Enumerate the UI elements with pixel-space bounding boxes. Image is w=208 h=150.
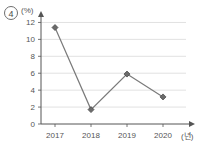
- x-tick-label: 2019: [118, 131, 136, 140]
- x-tick-label: 2020: [154, 131, 172, 140]
- y-tick-label: 2: [31, 103, 36, 112]
- x-axis-tick-labels: 2017201820192020: [46, 131, 172, 140]
- line-chart-plot: 024681012 2017201820192020: [0, 0, 208, 150]
- gridlines: [38, 22, 186, 124]
- y-tick-label: 12: [26, 18, 35, 27]
- data-point-marker: [52, 25, 58, 31]
- y-tick-label: 8: [31, 52, 36, 61]
- y-axis-tick-labels: 024681012: [26, 18, 35, 129]
- series-line: [55, 28, 163, 110]
- y-tick-label: 4: [31, 86, 36, 95]
- series-markers: [52, 25, 166, 113]
- chart-figure: 4 (%) (년) 024681012 2017201820192020: [0, 0, 208, 150]
- data-point-marker: [160, 94, 166, 100]
- y-tick-label: 0: [31, 120, 36, 129]
- y-tick-label: 10: [26, 35, 35, 44]
- x-tick-label: 2017: [46, 131, 64, 140]
- y-tick-label: 6: [31, 69, 36, 78]
- x-tick-label: 2018: [82, 131, 100, 140]
